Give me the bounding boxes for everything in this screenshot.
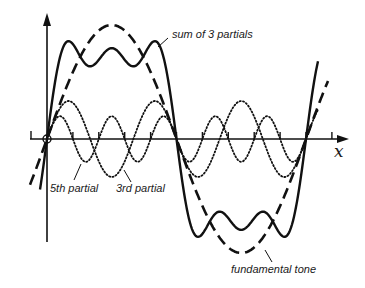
leader-lines: [74, 38, 272, 262]
x-axis: [30, 135, 349, 143]
sum-label: sum of 3 partials: [172, 28, 253, 40]
fourier-diagram: [0, 0, 365, 288]
x-axis-label: x: [334, 141, 344, 161]
third-partial-label: 3rd partial: [116, 182, 165, 194]
fifth-partial-label: 5th partial: [50, 182, 98, 194]
fundamental-label: fundamental tone: [231, 263, 316, 275]
